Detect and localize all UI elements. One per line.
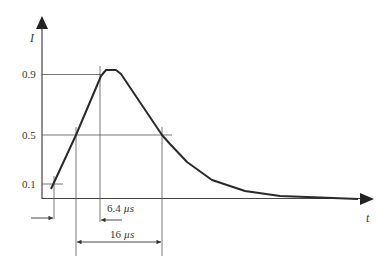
- half-width-dimension: 16 µs: [77, 228, 161, 242]
- y-axis-arrow-icon: [36, 16, 48, 29]
- y-axis-label: I: [29, 31, 35, 45]
- half-width-label: 16 µs: [110, 228, 134, 240]
- y-axis: [36, 16, 48, 199]
- level-label-0.9: 0.9: [22, 68, 36, 80]
- x-axis: [42, 193, 374, 205]
- x-axis-label: t: [366, 211, 370, 225]
- rise-time-dimension: 6.4 µs: [31, 202, 134, 220]
- impulse-waveform-diagram: I t 0.9 0.5 0.1 6.4 µs 16 µs: [0, 0, 391, 260]
- rise-time-label: 6.4 µs: [107, 202, 134, 214]
- level-label-0.1: 0.1: [22, 178, 36, 190]
- x-axis-arrow-icon: [360, 193, 374, 205]
- reference-lines: [54, 66, 162, 256]
- level-label-0.5: 0.5: [22, 129, 36, 141]
- waveform-curve: [51, 70, 358, 199]
